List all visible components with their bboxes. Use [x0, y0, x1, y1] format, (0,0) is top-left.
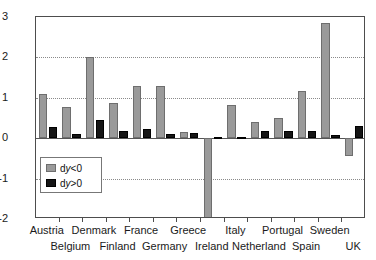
bar-ireland-dy-negative: [204, 138, 213, 218]
bar-finland-dy-negative: [109, 103, 118, 138]
y-tick-label-3: 3: [0, 10, 8, 22]
x-axis-label-ireland: Ireland: [195, 240, 229, 252]
bar-portugal-dy-negative: [274, 118, 283, 138]
bar-greece-dy-positive: [190, 133, 199, 139]
bar-italy-dy-negative: [227, 105, 236, 138]
x-axis-labels-row-top: AustriaDenmarkFranceGreeceItalyPortugalS…: [0, 224, 376, 240]
x-axis-label-germany: Germany: [142, 240, 187, 252]
x-tick-mark: [153, 218, 154, 222]
x-axis-label-portugal: Portugal: [262, 224, 303, 236]
bar-denmark-dy-negative: [86, 57, 95, 139]
bar-portugal-dy-positive: [284, 131, 293, 139]
y-tick-label-neg2: -2: [0, 212, 8, 224]
x-tick-mark: [176, 218, 177, 222]
x-tick-mark: [59, 218, 60, 222]
x-tick-mark: [224, 218, 225, 222]
bar-spain-dy-negative: [298, 91, 307, 138]
bar-france-dy-negative: [133, 86, 142, 138]
bar-netherland-dy-positive: [261, 131, 270, 139]
x-tick-mark: [129, 218, 130, 222]
x-axis-label-spain: Spain: [292, 240, 320, 252]
legend-entry-dy-positive: dy>0: [46, 176, 82, 190]
bar-finland-dy-positive: [119, 131, 128, 138]
y-tick-label-0: 0: [0, 131, 8, 143]
x-tick-mark: [294, 218, 295, 222]
bar-italy-dy-positive: [237, 137, 246, 139]
bar-chart: 3 2 1 0 -1 -2 AustriaDenmarkFranceGreece…: [0, 0, 376, 260]
bar-sweden-dy-positive: [331, 135, 340, 138]
x-axis-labels-row-bottom: BelgiumFinlandGermanyIrelandNetherlandSp…: [0, 240, 376, 256]
black-swatch-icon: [46, 179, 56, 187]
x-axis-label-netherland: Netherland: [232, 240, 286, 252]
bar-austria-dy-negative: [39, 94, 48, 138]
bar-uk-dy-negative: [345, 138, 354, 156]
x-tick-mark: [200, 218, 201, 222]
bar-germany-dy-negative: [156, 86, 165, 138]
x-axis-label-finland: Finland: [99, 240, 135, 252]
y-tick-label-neg1: -1: [0, 172, 8, 184]
y-tick-label-2: 2: [0, 50, 8, 62]
gray-swatch-icon: [46, 164, 56, 172]
bar-denmark-dy-positive: [96, 120, 105, 139]
x-tick-mark: [341, 218, 342, 222]
legend: dy<0 dy>0: [40, 157, 102, 193]
bar-belgium-dy-positive: [72, 134, 81, 138]
x-tick-mark: [106, 218, 107, 222]
legend-label-dy-negative: dy<0: [60, 163, 82, 174]
zero-line: [36, 138, 364, 139]
x-axis-label-denmark: Denmark: [72, 224, 117, 236]
x-axis-label-italy: Italy: [225, 224, 245, 236]
bar-spain-dy-positive: [308, 131, 317, 139]
bar-sweden-dy-negative: [321, 23, 330, 139]
y-tick-label-1: 1: [0, 91, 8, 103]
x-tick-mark: [82, 218, 83, 222]
x-axis-label-sweden: Sweden: [310, 224, 350, 236]
x-axis-label-france: France: [124, 224, 158, 236]
legend-label-dy-positive: dy>0: [60, 178, 82, 189]
x-axis-label-austria: Austria: [30, 224, 64, 236]
x-axis-label-greece: Greece: [170, 224, 206, 236]
x-tick-mark: [318, 218, 319, 222]
bar-belgium-dy-negative: [62, 107, 71, 139]
bar-uk-dy-positive: [355, 126, 364, 138]
x-axis-label-uk: UK: [346, 240, 361, 252]
bar-germany-dy-positive: [166, 134, 175, 138]
x-tick-mark: [247, 218, 248, 222]
bar-greece-dy-negative: [180, 132, 189, 138]
x-tick-mark: [271, 218, 272, 222]
bar-france-dy-positive: [143, 129, 152, 138]
bar-ireland-dy-positive: [214, 137, 223, 139]
x-axis-label-belgium: Belgium: [50, 240, 90, 252]
legend-entry-dy-negative: dy<0: [46, 161, 82, 175]
bar-austria-dy-positive: [49, 127, 58, 138]
bar-netherland-dy-negative: [251, 122, 260, 138]
